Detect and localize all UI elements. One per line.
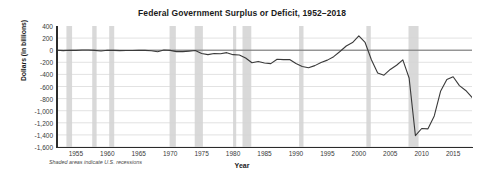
x-axis-tick-label: 1975 [194,150,208,157]
x-axis-tick-label: 2015 [446,150,460,157]
x-axis-tick-label: 1985 [257,150,271,157]
y-axis-tick-label: 400 [42,23,53,30]
y-axis-tick-label: -1,400 [35,131,53,138]
y-axis-tick-label: 200 [42,35,53,42]
x-axis-tick-label: 1965 [132,150,146,157]
y-axis-tick-label: -1,000 [35,107,53,114]
x-axis-tick-label: 1980 [226,150,240,157]
x-axis-tick-label: 1960 [100,150,114,157]
x-axis-tick-label: 2005 [383,150,397,157]
y-axis-line [56,26,58,148]
chart-canvas [57,26,472,147]
x-axis-line [56,147,473,149]
y-axis-tick-label: -1,600 [35,144,53,151]
x-axis-tick-label: 2000 [352,150,366,157]
x-axis-tick-label: 1990 [289,150,303,157]
x-axis-title: Year [0,162,484,169]
y-axis-tick-label: -200 [40,59,53,66]
chart-figure: Federal Government Surplus or Deficit, 1… [0,0,484,178]
x-axis-tick-label: 1970 [163,150,177,157]
y-axis-tick-label: -400 [40,71,53,78]
y-axis-tick-label: 0 [49,47,53,54]
y-axis-tick-label: -800 [40,95,53,102]
plot-area [57,26,472,147]
y-axis-tick-label: -1,200 [35,119,53,126]
x-axis-tick-label: 1955 [69,150,83,157]
y-axis-tick-labels: 4002000-200-400-600-800-1,000-1,200-1,40… [0,0,53,178]
x-axis-tick-label: 1995 [320,150,334,157]
x-axis-tick-label: 2010 [414,150,428,157]
y-axis-tick-label: -600 [40,83,53,90]
chart-title: Federal Government Surplus or Deficit, 1… [0,8,484,18]
